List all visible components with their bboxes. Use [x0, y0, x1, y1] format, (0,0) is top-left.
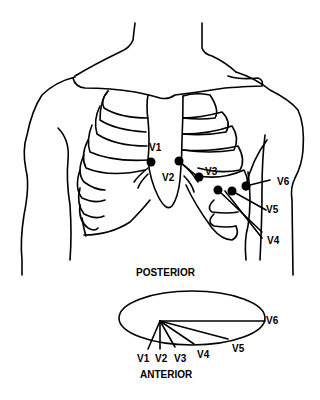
- cs-label-v3: V3: [174, 354, 186, 364]
- cross-section: [119, 291, 265, 349]
- label-v3: V3: [205, 167, 217, 177]
- label-v5: V5: [266, 205, 278, 215]
- ecg-lead-diagram: V1 V2 V3 V4 V5 V6 POSTERIOR ANTERIOR V1 …: [0, 0, 320, 400]
- label-v6: V6: [277, 177, 289, 187]
- posterior-label: POSTERIOR: [136, 268, 195, 278]
- cs-label-v2: V2: [155, 354, 167, 364]
- cs-label-v6: V6: [266, 316, 278, 326]
- electrode-v6: [242, 182, 251, 191]
- electrode-v1: [147, 158, 156, 167]
- cs-label-v1: V1: [137, 354, 149, 364]
- electrode-v2: [175, 157, 184, 166]
- cs-label-v4: V4: [197, 350, 209, 360]
- label-v1: V1: [149, 143, 161, 153]
- cs-label-v5: V5: [232, 344, 244, 354]
- electrode-v4: [214, 186, 223, 195]
- anterior-label: ANTERIOR: [140, 370, 192, 380]
- electrode-v3: [195, 173, 204, 182]
- label-v4: V4: [267, 236, 279, 246]
- label-v2: V2: [162, 173, 174, 183]
- torso-outline: [0, 0, 320, 400]
- electrode-v5: [228, 187, 237, 196]
